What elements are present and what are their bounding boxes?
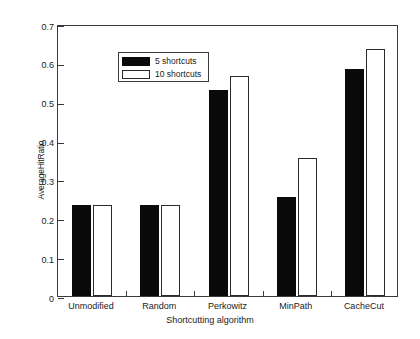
x-tick-mark: [331, 291, 332, 296]
x-tick-mark: [263, 291, 264, 296]
y-tick-mark: [58, 65, 64, 66]
y-tick-label: 0.1: [41, 255, 54, 264]
bar-minpath-5-shortcuts: [277, 197, 296, 296]
y-tick-label: 0.5: [41, 100, 54, 109]
x-category-label-perkowitz: Perkowitz: [208, 301, 247, 311]
y-tick-mark: [58, 181, 64, 182]
legend-label-10-shortcuts: 10 shortcuts: [155, 70, 201, 79]
bar-random-10-shortcuts: [161, 205, 180, 296]
x-category-label-cachecut: CacheCut: [344, 301, 384, 311]
bar-unmodified-10-shortcuts: [93, 205, 112, 296]
y-tick-label: 0.2: [41, 216, 54, 225]
y-tick-label: 0: [49, 294, 54, 303]
y-tick-0.5: 0.5: [58, 104, 64, 105]
bar-chart-figure: AverageHitRatio 00.10.20.30.40.50.60.7 5…: [0, 0, 420, 339]
y-tick-0.1: 0.1: [58, 259, 64, 260]
y-tick-mark: [58, 259, 64, 260]
y-tick-label: 0.6: [41, 61, 54, 70]
bar-unmodified-5-shortcuts: [72, 205, 91, 296]
bar-perkowitz-5-shortcuts: [209, 90, 228, 296]
y-tick-mark: [58, 143, 64, 144]
y-tick-mark: [58, 26, 64, 27]
x-category-label-random: Random: [142, 301, 176, 311]
y-tick-0.6: 0.6: [58, 65, 64, 66]
legend-item-5-shortcuts: 5 shortcuts: [122, 55, 205, 67]
chart-legend: 5 shortcuts 10 shortcuts: [118, 52, 209, 82]
bar-perkowitz-10-shortcuts: [230, 76, 249, 296]
x-category-label-unmodified: Unmodified: [68, 301, 114, 311]
y-tick-0.4: 0.4: [58, 143, 64, 144]
x-tick-mark: [126, 291, 127, 296]
x-tick-mark: [194, 291, 195, 296]
x-category-label-minpath: MinPath: [279, 301, 312, 311]
y-tick-0: 0: [58, 298, 64, 299]
y-tick-0.7: 0.7: [58, 26, 64, 27]
legend-swatch-5-shortcuts: [122, 57, 150, 66]
x-axis-title: Shortcutting algorithm: [0, 315, 420, 325]
y-tick-label: 0.4: [41, 139, 54, 148]
plot-area: 00.10.20.30.40.50.60.7 5 shortcuts 10 sh…: [57, 25, 398, 297]
y-tick-0.2: 0.2: [58, 220, 64, 221]
y-tick-mark: [58, 104, 64, 105]
y-tick-mark: [58, 298, 64, 299]
legend-label-5-shortcuts: 5 shortcuts: [155, 57, 197, 66]
y-tick-label: 0.3: [41, 177, 54, 186]
bar-random-5-shortcuts: [140, 205, 159, 296]
y-tick-label: 0.7: [41, 22, 54, 31]
y-tick-mark: [58, 220, 64, 221]
y-axis-title: AverageHitRatio: [36, 140, 46, 199]
bar-cachecut-5-shortcuts: [345, 69, 364, 296]
bar-minpath-10-shortcuts: [298, 158, 317, 296]
bar-cachecut-10-shortcuts: [366, 49, 385, 296]
y-tick-0.3: 0.3: [58, 181, 64, 182]
legend-item-10-shortcuts: 10 shortcuts: [122, 68, 205, 80]
legend-swatch-10-shortcuts: [122, 70, 150, 79]
